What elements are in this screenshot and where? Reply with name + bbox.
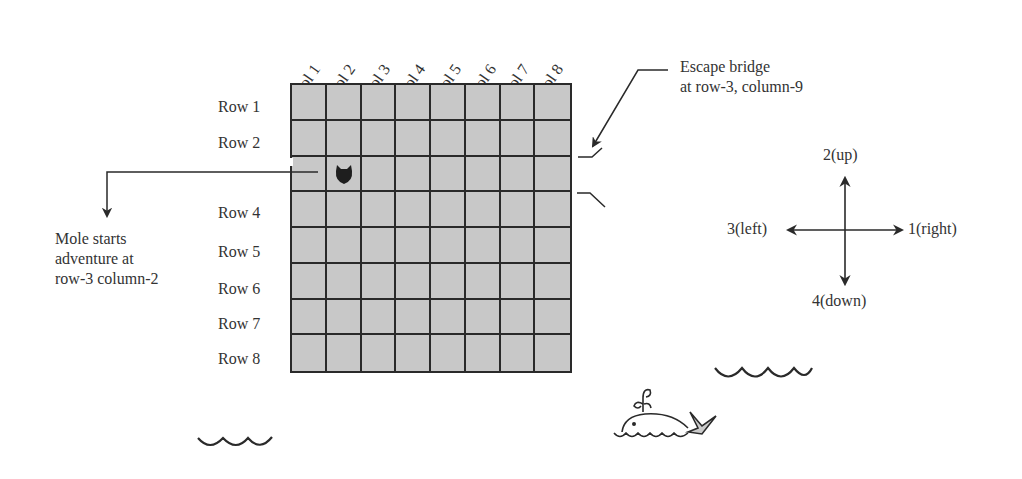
escape-bridge-line1: Escape bridge [680,57,803,77]
escape-bridge-line2: at row-3, column-9 [680,77,803,97]
wave-icon [715,368,812,377]
mole-start-line3: row-3 column-2 [55,269,159,289]
mole-start-note: Mole starts adventure at row-3 column-2 [55,229,159,289]
direction-compass [788,178,902,284]
direction-up-label: 2(up) [823,146,858,164]
mole-start-line1: Mole starts [55,229,159,249]
wave-icon [198,437,272,445]
direction-down-label: 4(down) [812,292,866,310]
whale-icon [614,390,716,437]
direction-left-label: 3(left) [727,220,767,238]
mole-start-pointer [107,172,318,216]
mole-start-line2: adventure at [55,249,159,269]
escape-bridge-pointer [593,70,668,146]
escape-bridge [577,148,605,207]
escape-bridge-note: Escape bridge at row-3, column-9 [680,57,803,97]
direction-right-label: 1(right) [908,220,957,238]
